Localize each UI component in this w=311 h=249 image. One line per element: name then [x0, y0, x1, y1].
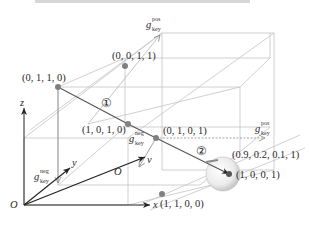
svg-text:key: key	[152, 26, 161, 32]
point-0110	[55, 84, 61, 90]
sphere	[206, 157, 240, 191]
svg-text:pos: pos	[152, 16, 161, 22]
label-0101: (0, 1, 0, 1)	[163, 125, 207, 137]
gkey-pos-top: g pos key	[146, 16, 161, 32]
point-1010	[125, 121, 131, 127]
svg-text:g: g	[129, 133, 134, 144]
gkey-pos-right: g pos key	[255, 120, 270, 136]
svg-text:key: key	[40, 178, 49, 184]
step-2-marker: ②	[196, 144, 207, 158]
svg-text:g: g	[146, 19, 151, 30]
cropped-caption	[35, 0, 250, 3]
point-1100	[159, 191, 165, 197]
svg-text:pos: pos	[261, 120, 270, 126]
axis-labels: O x z y O v	[10, 97, 158, 210]
label-1001: (1, 0, 0, 1)	[236, 169, 280, 181]
svg-text:key: key	[135, 140, 144, 146]
axes	[24, 108, 150, 205]
path-step-1	[58, 87, 128, 124]
origin-label: O	[10, 199, 18, 210]
inner-origin-label: O	[114, 166, 122, 177]
y-axis-label: y	[71, 157, 77, 168]
z-axis-label: z	[19, 97, 24, 108]
path-step-2	[156, 138, 229, 174]
label-0921: (0.9, 0.2, 0.1, 1)	[232, 149, 300, 161]
svg-text:g: g	[34, 171, 39, 182]
point-0101	[153, 135, 159, 141]
svg-text:neg: neg	[40, 168, 49, 174]
label-0011: (0, 0, 1, 1)	[112, 50, 156, 62]
v-label: v	[147, 154, 152, 165]
point-1001	[226, 171, 232, 177]
diagram-canvas: (0, 0, 1, 1) (0, 1, 1, 0) (1, 0, 1, 0) (…	[0, 0, 311, 249]
gkey-neg-left: g neg key	[34, 168, 49, 184]
label-1010: (1, 0, 1, 0)	[82, 124, 126, 136]
label-0110: (0, 1, 1, 0)	[22, 72, 66, 84]
gkey-neg-center: g neg key	[129, 130, 144, 146]
svg-text:neg: neg	[135, 130, 144, 136]
svg-text:g: g	[255, 123, 260, 134]
svg-text:key: key	[261, 130, 270, 136]
x-axis-label: x	[152, 199, 158, 210]
point-0011	[122, 63, 128, 69]
label-1100: (1, 1, 0, 0)	[160, 198, 204, 210]
step-1-marker: ①	[101, 96, 112, 110]
